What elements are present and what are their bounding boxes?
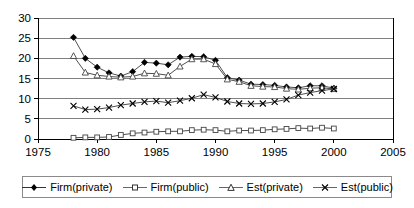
x-axis-tick-label: 2005 xyxy=(380,146,406,158)
marker-open-square xyxy=(308,126,313,131)
y-axis-tick-label: 15 xyxy=(18,73,31,85)
marker-open-square xyxy=(107,135,112,140)
x-axis-tick-label: 1985 xyxy=(144,146,170,158)
marker-open-square xyxy=(189,128,194,133)
x-axis-tick-label: 1975 xyxy=(25,146,51,158)
marker-filled-diamond xyxy=(153,60,159,66)
legend-item-est-private: Est(private) xyxy=(218,182,303,193)
marker-cross-x xyxy=(71,103,77,109)
x-axis-tick-label: 2000 xyxy=(321,146,347,158)
plot-area: 0510152025301975198019851990199520002005 xyxy=(0,0,414,168)
marker-cross-x xyxy=(213,94,219,100)
marker-open-square xyxy=(201,127,206,132)
marker-open-square xyxy=(272,127,277,132)
y-axis-tick-label: 0 xyxy=(25,133,31,145)
marker-open-square xyxy=(130,131,135,136)
legend-key-cross-x-icon xyxy=(312,182,338,193)
marker-open-square xyxy=(225,129,230,134)
legend-key-open-triangle-icon xyxy=(218,182,244,193)
legend-item-est-public: Est(public) xyxy=(312,182,393,193)
legend-key-open-square-icon xyxy=(122,182,148,193)
series-firmpublic xyxy=(71,125,336,140)
y-axis-tick-label: 25 xyxy=(18,32,31,44)
legend-item-firm-private: Firm(private) xyxy=(21,182,112,193)
marker-filled-diamond xyxy=(165,62,171,68)
marker-open-triangle xyxy=(70,53,76,59)
x-axis-tick-label: 1990 xyxy=(203,146,229,158)
marker-open-square xyxy=(142,130,147,135)
legend-label: Firm(private) xyxy=(50,182,112,193)
marker-open-square xyxy=(296,126,301,131)
marker-open-square xyxy=(213,128,218,133)
marker-open-square xyxy=(284,127,289,132)
marker-open-square xyxy=(83,135,88,140)
marker-open-square xyxy=(320,125,325,130)
y-axis-tick-label: 10 xyxy=(18,93,31,105)
legend-item-firm-public: Firm(public) xyxy=(122,182,209,193)
marker-open-square xyxy=(178,129,183,134)
marker-open-square xyxy=(95,135,100,140)
legend-label: Firm(public) xyxy=(151,182,209,193)
marker-open-square xyxy=(154,129,159,134)
series-line xyxy=(74,37,334,88)
legend-label: Est(public) xyxy=(341,182,393,193)
series-firmprivate xyxy=(70,34,337,91)
chart-figure: 0510152025301975198019851990199520002005… xyxy=(0,0,414,208)
marker-open-square xyxy=(237,128,242,133)
marker-open-square xyxy=(331,126,336,131)
marker-open-square xyxy=(260,128,265,133)
x-axis-tick-label: 1995 xyxy=(262,146,288,158)
legend-key-filled-diamond-icon xyxy=(21,182,47,193)
marker-open-square xyxy=(166,129,171,134)
marker-open-square xyxy=(249,128,254,133)
marker-filled-diamond xyxy=(177,54,183,60)
y-axis-tick-label: 5 xyxy=(25,113,31,125)
marker-cross-x xyxy=(201,92,207,98)
marker-open-square xyxy=(118,133,123,138)
x-axis-tick-label: 1980 xyxy=(84,146,110,158)
marker-filled-diamond xyxy=(70,34,76,40)
line-chart-svg: 0510152025301975198019851990199520002005 xyxy=(0,0,414,168)
y-axis-tick-label: 20 xyxy=(18,52,31,64)
marker-open-square xyxy=(71,135,76,140)
y-axis-tick-label: 30 xyxy=(18,12,31,24)
legend-label: Est(private) xyxy=(247,182,303,193)
chart-legend: Firm(private) Firm(public) Est(private) … xyxy=(22,176,392,198)
marker-open-triangle xyxy=(177,63,183,69)
